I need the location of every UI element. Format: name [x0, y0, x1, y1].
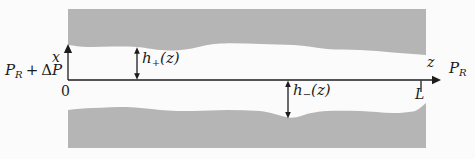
h-plus-arrow: [134, 47, 140, 79]
length-label: L: [415, 87, 424, 101]
inlet-pressure-label: PR+ΔP: [5, 63, 62, 78]
outlet-pressure-label: PR: [449, 61, 467, 76]
h-minus-arrow: [285, 81, 291, 119]
lower-wall: [68, 103, 426, 148]
z-axis: [68, 76, 441, 84]
pressure-symbol: P: [5, 61, 15, 79]
lower-gap-label: h−(z): [293, 83, 331, 98]
rough-channel-figure: PR+ΔP x 0 h+(z) h−(z) z PR L: [0, 0, 475, 159]
channel-diagram: [0, 0, 475, 159]
origin-label: 0: [61, 84, 70, 98]
x-axis: [64, 44, 72, 80]
upper-gap-label: h+(z): [142, 51, 180, 66]
upper-wall: [68, 9, 426, 55]
x-axis-label: x: [52, 50, 60, 64]
z-axis-label: z: [427, 55, 434, 69]
z-axis-arrowhead: [432, 76, 441, 84]
delta-symbol: Δ: [41, 61, 52, 79]
